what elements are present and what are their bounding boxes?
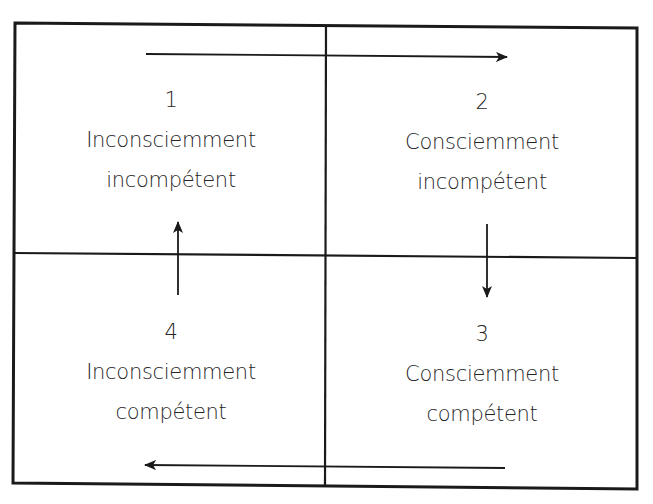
- quadrant-2-consciously-incompetent: 2 Consciemment incompétent: [342, 82, 622, 202]
- quadrant-number: 2: [342, 82, 622, 122]
- quadrant-3-consciously-competent: 3 Consciemment compétent: [342, 314, 622, 434]
- quadrant-label-line2: incompétent: [342, 162, 622, 202]
- quadrant-label-line1: Inconsciemment: [31, 352, 311, 392]
- quadrant-label-line2: compétent: [342, 394, 622, 434]
- quadrant-label-line1: Inconsciemment: [31, 120, 311, 160]
- quadrant-number: 4: [31, 312, 311, 352]
- quadrant-label-line2: incompétent: [31, 160, 311, 200]
- quadrant-number: 3: [342, 314, 622, 354]
- quadrant-4-unconsciously-competent: 4 Inconsciemment compétent: [31, 312, 311, 432]
- quadrant-label-line2: compétent: [31, 392, 311, 432]
- quadrant-label-line1: Consciemment: [342, 354, 622, 394]
- quadrant-number: 1: [31, 80, 311, 120]
- quadrant-label-line1: Consciemment: [342, 122, 622, 162]
- quadrant-1-unconsciously-incompetent: 1 Inconsciemment incompétent: [31, 80, 311, 200]
